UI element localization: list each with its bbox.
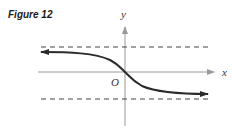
y-axis-label: y bbox=[120, 8, 126, 20]
origin-label: O bbox=[111, 76, 119, 88]
x-axis-label: x bbox=[221, 66, 227, 78]
graph: y x O bbox=[0, 0, 239, 128]
